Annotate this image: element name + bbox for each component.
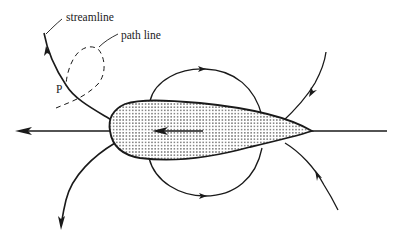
- path-line-leader: [99, 34, 118, 47]
- streamline-label: streamline: [66, 11, 114, 23]
- down-arrow-icon: [309, 87, 317, 97]
- upper-left-streamline: [44, 19, 113, 121]
- airfoil-streamline-diagram: streamline path line P: [0, 0, 396, 242]
- streamline-leader: [46, 19, 62, 34]
- lower-right-streamline: [285, 143, 338, 210]
- path-line-label: path line: [121, 29, 161, 42]
- point-p-label: P: [56, 83, 62, 95]
- upper-right-streamline: [281, 52, 326, 123]
- path-line: [56, 34, 118, 108]
- upstream-stagnation-line: [15, 127, 110, 135]
- lower-left-streamline: [58, 143, 115, 230]
- airfoil-body: [110, 101, 312, 160]
